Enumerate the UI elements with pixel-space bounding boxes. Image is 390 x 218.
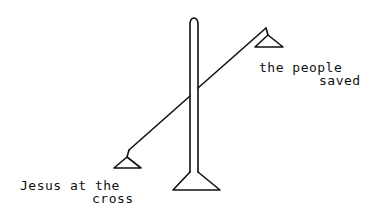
scale-post <box>190 18 198 172</box>
left-pan <box>114 157 141 168</box>
scale-base <box>173 172 220 190</box>
scale-beam-right <box>198 28 266 88</box>
right-pan-label: the people saved <box>259 61 361 87</box>
scale-beam-left <box>129 96 190 150</box>
right-pan-hook <box>266 28 268 35</box>
right-pan-label-line2: saved <box>259 74 361 87</box>
left-pan-label: Jesus at the cross <box>20 179 134 205</box>
right-pan <box>255 35 283 47</box>
left-pan-label-line2: cross <box>20 192 134 205</box>
left-pan-hook <box>127 150 129 157</box>
